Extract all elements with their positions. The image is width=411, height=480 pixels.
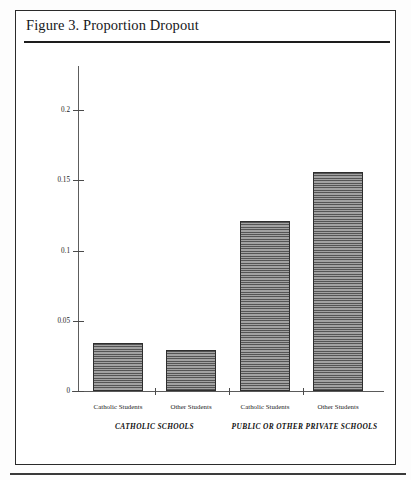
x-group-label-public-schools: PUBLIC OR OTHER PRIVATE SCHOOLS [222, 422, 387, 431]
y-axis-line [78, 66, 79, 392]
y-tick-0.2 [73, 110, 84, 111]
y-tick-label-0.1: 0.1 [61, 247, 70, 255]
y-tick-label-0.2: 0.2 [61, 106, 70, 114]
x-tick-2 [229, 388, 230, 395]
bar-other-students-catholic-schools [166, 350, 216, 391]
bar-chart: 0.2 0.15 0.1 0.05 0 Catholic Students Ot… [0, 0, 411, 480]
bar-catholic-students-catholic-schools [93, 343, 143, 391]
x-axis-line [72, 391, 384, 392]
x-category-label-1: Catholic Students [83, 403, 153, 410]
bar-other-students-public-schools [313, 172, 363, 391]
y-tick-label-0.15: 0.15 [57, 176, 70, 184]
x-tick-1 [155, 388, 156, 395]
x-group-label-catholic-schools: CATHOLIC SCHOOLS [77, 422, 232, 431]
y-tick-0 [73, 391, 84, 392]
x-tick-3 [303, 388, 304, 395]
bar-catholic-students-public-schools [240, 221, 290, 391]
y-tick-label-0: 0 [66, 387, 70, 395]
y-tick-label-0.05: 0.05 [57, 317, 70, 325]
y-tick-0.15 [73, 180, 84, 181]
figure-page: Figure 3. Proportion Dropout 0.2 0.15 0.… [0, 0, 411, 480]
x-category-label-4: Other Students [303, 403, 373, 410]
x-category-label-3: Catholic Students [230, 403, 300, 410]
y-tick-0.1 [73, 251, 84, 252]
page-footer-divider [10, 473, 406, 475]
x-category-label-2: Other Students [156, 403, 226, 410]
y-tick-0.05 [73, 321, 84, 322]
